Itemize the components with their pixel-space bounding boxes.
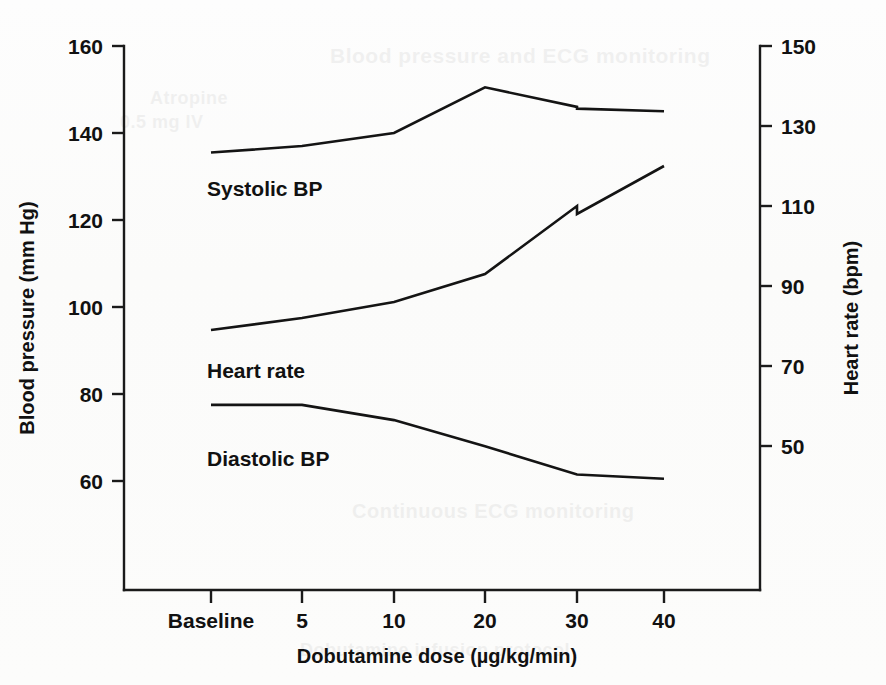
x-axis-title: Dobutamine dose (µg/kg/min) xyxy=(297,645,577,667)
series-label-diastolic-bp: Diastolic BP xyxy=(207,447,330,470)
right-ticklabel-90: 90 xyxy=(781,275,804,298)
right-ticklabel-130: 130 xyxy=(781,115,816,138)
left-axis-ticks xyxy=(112,46,124,481)
chart-figure: 160 140 120 100 80 60 Blood pressure (mm… xyxy=(0,0,886,685)
right-ticklabel-50: 50 xyxy=(781,435,804,458)
x-axis-ticks xyxy=(211,590,664,603)
x-ticklabel-10: 10 xyxy=(382,609,405,632)
data-series-group xyxy=(211,87,664,479)
x-axis-tick-labels: Baseline 5 10 20 30 40 xyxy=(168,609,676,632)
right-ticklabel-110: 110 xyxy=(781,195,815,218)
x-ticklabel-5: 5 xyxy=(296,609,308,632)
right-ticklabel-70: 70 xyxy=(781,355,804,378)
left-axis: 160 140 120 100 80 60 Blood pressure (mm… xyxy=(16,35,124,590)
left-ticklabel-80: 80 xyxy=(80,383,103,406)
series-label-systolic-bp: Systolic BP xyxy=(207,177,323,200)
right-axis-tick-labels: 150 130 110 90 70 50 xyxy=(781,35,816,458)
x-ticklabel-30: 30 xyxy=(565,609,588,632)
left-axis-tick-labels: 160 140 120 100 80 60 xyxy=(68,35,103,493)
series-line-systolic-bp xyxy=(211,87,664,152)
right-axis: 150 130 110 90 70 50 Heart rate (bpm) xyxy=(760,35,862,590)
right-ticklabel-150: 150 xyxy=(781,35,816,58)
left-ticklabel-140: 140 xyxy=(68,122,103,145)
x-ticklabel-40: 40 xyxy=(652,609,675,632)
left-ticklabel-100: 100 xyxy=(68,296,103,319)
right-axis-title: Heart rate (bpm) xyxy=(840,241,862,395)
left-ticklabel-60: 60 xyxy=(80,470,103,493)
x-ticklabel-20: 20 xyxy=(473,609,496,632)
x-axis: Baseline 5 10 20 30 40 Dobutamine dose (… xyxy=(124,590,760,667)
left-ticklabel-160: 160 xyxy=(68,35,103,58)
line-chart-svg: 160 140 120 100 80 60 Blood pressure (mm… xyxy=(0,0,886,685)
series-label-heart-rate: Heart rate xyxy=(207,359,305,382)
right-axis-ticks xyxy=(760,46,772,446)
left-ticklabel-120: 120 xyxy=(68,209,103,232)
left-axis-title: Blood pressure (mm Hg) xyxy=(16,201,38,434)
x-ticklabel-baseline: Baseline xyxy=(168,609,254,632)
